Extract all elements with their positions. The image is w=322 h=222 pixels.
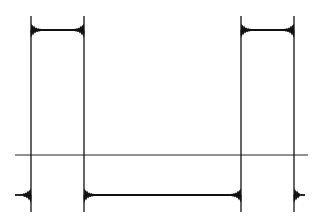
wave-plateaus — [15, 30, 305, 195]
transition-edges — [31, 16, 294, 212]
square-wave-plot — [0, 0, 322, 222]
gibbs-ringing — [23, 23, 300, 202]
